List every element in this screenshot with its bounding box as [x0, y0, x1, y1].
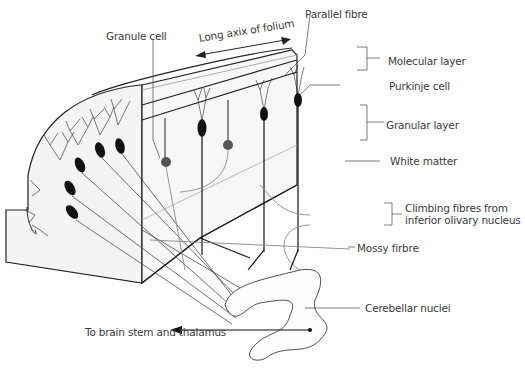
label-climbing-fibres: Climbing fibres from inferior olivary nu… [405, 202, 525, 226]
label-white-matter: White matter [390, 155, 457, 167]
label-mossy-fibre: Mossy firbre [357, 242, 419, 254]
folium-block [6, 48, 297, 283]
label-purkinje-cell: Purkinje cell [389, 80, 450, 92]
label-cerebellar-nuclei: Cerebellar nuclei [365, 302, 450, 314]
label-granular-layer: Granular layer [386, 119, 459, 131]
label-parallel-fibre: Parallel fibre [305, 8, 368, 20]
label-granule-cell: Granule cell [106, 30, 167, 42]
label-output: To brain stem and thalamus [85, 326, 226, 338]
label-molecular-layer: Molecular layer [388, 55, 466, 67]
cerebellar-nuclei [170, 269, 327, 360]
